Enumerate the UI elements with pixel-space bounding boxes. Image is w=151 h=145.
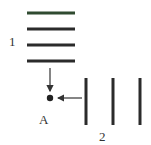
label-point-a: A xyxy=(39,112,49,127)
vertical-lines-group-2 xyxy=(86,78,140,125)
label-group-2: 2 xyxy=(99,129,106,144)
label-group-1: 1 xyxy=(9,34,16,49)
horizontal-lines-group-1 xyxy=(27,13,75,61)
point-a xyxy=(47,95,53,101)
diagram-canvas: 1 A 2 xyxy=(0,0,151,145)
diagram-svg: 1 A 2 xyxy=(0,0,151,145)
